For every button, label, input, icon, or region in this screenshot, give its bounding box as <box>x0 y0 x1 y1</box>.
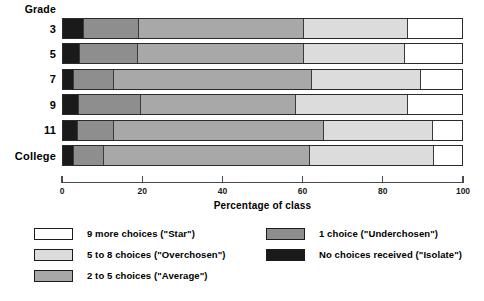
legend-item[interactable]: 9 more choices ("Star") <box>34 223 258 244</box>
legend-item[interactable]: No choices received ("Isolate") <box>266 244 480 265</box>
legend-label: 5 to 8 choices ("Overchosen") <box>87 249 226 260</box>
bar-segment <box>63 95 79 114</box>
category-axis-title: Grade <box>0 3 56 15</box>
bar-segment <box>433 121 463 140</box>
bar-segment <box>63 146 74 165</box>
bar-segment <box>324 121 433 140</box>
legend-label: No choices received ("Isolate") <box>319 249 462 260</box>
axis-tick <box>222 176 223 183</box>
value-axis-title: Percentage of class <box>62 200 463 211</box>
axis-tick-label: 20 <box>137 186 146 196</box>
bar-segment <box>79 95 141 114</box>
bar-segment <box>74 70 115 89</box>
bar-segment <box>296 95 408 114</box>
bar-segment <box>139 19 303 38</box>
axis-tick <box>142 176 143 183</box>
bar-segment <box>141 95 295 114</box>
bar-segment <box>304 44 405 63</box>
legend-swatch-icon <box>34 228 73 240</box>
bar-segment <box>114 121 324 140</box>
bar-segment <box>312 70 421 89</box>
axis-tick-label: 40 <box>218 186 227 196</box>
axis-tick-label: 0 <box>60 186 65 196</box>
axis-tick-label: 80 <box>378 186 387 196</box>
legend-item[interactable]: 1 choice ("Underchosen") <box>266 223 480 244</box>
legend-item[interactable]: 2 to 5 choices ("Average") <box>34 265 258 286</box>
bar-segment <box>405 44 463 63</box>
bar-segment <box>78 121 114 140</box>
category-label-7: 7 <box>0 73 56 85</box>
bar-segment <box>63 70 74 89</box>
bar-segment <box>80 44 138 63</box>
category-label-11: 11 <box>0 124 56 136</box>
legend-item[interactable]: 5 to 8 choices ("Overchosen") <box>34 244 258 265</box>
axis-tick-label: 100 <box>456 186 470 196</box>
bar-segment <box>114 70 311 89</box>
legend-label: 1 choice ("Underchosen") <box>319 228 438 239</box>
legend-swatch-icon <box>266 228 305 240</box>
axis-tick <box>462 176 463 183</box>
category-label-5: 5 <box>0 48 56 60</box>
bar-segment <box>408 95 463 114</box>
bar-segment <box>138 44 304 63</box>
bar-row <box>62 145 463 166</box>
legend-column-right: 1 choice ("Underchosen")No choices recei… <box>266 223 480 265</box>
bar-segment <box>63 19 84 38</box>
chart-legend: 9 more choices ("Star")5 to 8 choices ("… <box>34 223 480 295</box>
bar-segment <box>421 70 463 89</box>
legend-label: 9 more choices ("Star") <box>87 228 195 239</box>
bar-segment <box>63 44 80 63</box>
bar-segment <box>434 146 463 165</box>
legend-swatch-icon <box>266 249 305 261</box>
bar-row <box>62 43 463 64</box>
plot-area <box>62 18 463 174</box>
legend-label: 2 to 5 choices ("Average") <box>87 270 208 281</box>
category-label-3: 3 <box>0 23 56 35</box>
axis-tick <box>382 176 383 183</box>
category-label-college: College <box>0 150 56 162</box>
legend-swatch-icon <box>34 270 73 282</box>
bar-segment <box>63 121 78 140</box>
bar-segment <box>408 19 463 38</box>
value-axis-line <box>62 182 463 183</box>
legend-column-left: 9 more choices ("Star")5 to 8 choices ("… <box>34 223 258 286</box>
bar-row <box>62 69 463 90</box>
bar-row <box>62 120 463 141</box>
bar-segment <box>304 19 408 38</box>
axis-tick <box>302 176 303 183</box>
bar-segment <box>74 146 104 165</box>
category-label-9: 9 <box>0 99 56 111</box>
bar-segment <box>84 19 139 38</box>
bar-segment <box>104 146 310 165</box>
axis-tick-label: 60 <box>298 186 307 196</box>
bar-row <box>62 18 463 39</box>
bar-segment <box>310 146 434 165</box>
bar-row <box>62 94 463 115</box>
stacked-bar-chart: Grade 357911College 020406080100 Percent… <box>0 0 484 301</box>
legend-swatch-icon <box>34 249 73 261</box>
axis-tick <box>61 176 62 183</box>
